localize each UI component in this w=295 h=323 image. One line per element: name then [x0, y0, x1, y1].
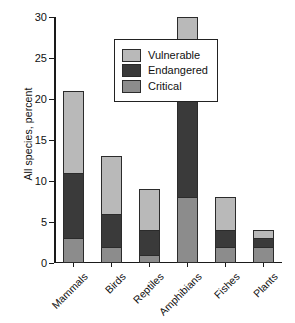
bar-segment-vulnerable[interactable] [63, 91, 84, 173]
x-axis-label-birds: Birds [103, 271, 127, 295]
bar-segment-critical[interactable] [63, 238, 84, 263]
bar-segment-critical[interactable] [215, 247, 236, 263]
y-tick-label: 20 [35, 94, 47, 105]
legend-item-critical[interactable]: Critical [122, 80, 208, 93]
chart-figure: All species, percent 051015202530 Mammal… [0, 0, 295, 323]
y-axis-title: All species, percent [22, 44, 34, 224]
bar-segment-endangered[interactable] [215, 230, 236, 246]
bar-segment-critical[interactable] [177, 197, 198, 263]
y-tick-label: 15 [35, 135, 47, 146]
bar-segment-vulnerable[interactable] [101, 156, 122, 213]
x-tick-mark [263, 263, 264, 267]
x-tick-mark [73, 263, 74, 267]
legend-swatch-icon [122, 64, 141, 77]
bar-mammals[interactable] [63, 91, 84, 263]
legend-item-endangered[interactable]: Endangered [122, 64, 208, 77]
x-tick-mark [111, 263, 112, 267]
bar-reptiles[interactable] [139, 189, 160, 263]
legend-swatch-icon [122, 80, 141, 93]
x-tick-mark [187, 263, 188, 267]
bar-segment-critical[interactable] [253, 247, 274, 263]
bar-segment-critical[interactable] [139, 255, 160, 263]
x-axis-label-fishes: Fishes [212, 271, 241, 300]
bar-segment-endangered[interactable] [177, 99, 198, 197]
bar-segment-critical[interactable] [101, 247, 122, 263]
bar-segment-endangered[interactable] [101, 214, 122, 247]
x-axis-label-plants: Plants [251, 271, 279, 299]
bar-segment-endangered[interactable] [253, 238, 274, 246]
y-tick-label: 0 [41, 258, 47, 269]
bar-segment-endangered[interactable] [139, 230, 160, 255]
x-tick-mark [225, 263, 226, 267]
chart-legend: VulnerableEndangeredCritical [114, 39, 218, 102]
bar-segment-vulnerable[interactable] [139, 189, 160, 230]
plot-area: 051015202530 MammalsBirdsReptilesAmphibi… [54, 17, 282, 263]
y-tick-label: 10 [35, 176, 47, 187]
legend-item-label: Endangered [148, 65, 208, 76]
y-tick-label: 30 [35, 12, 47, 23]
bar-segment-vulnerable[interactable] [253, 230, 274, 238]
x-axis-label-reptiles: Reptiles [131, 271, 165, 305]
legend-item-label: Vulnerable [148, 50, 200, 61]
y-tick-mark [49, 263, 54, 264]
bar-birds[interactable] [101, 156, 122, 263]
x-axis-label-mammals: Mammals [50, 271, 90, 311]
bar-segment-endangered[interactable] [63, 173, 84, 239]
legend-item-vulnerable[interactable]: Vulnerable [122, 49, 208, 62]
legend-swatch-icon [122, 49, 141, 62]
bar-segment-vulnerable[interactable] [215, 197, 236, 230]
legend-item-label: Critical [148, 81, 182, 92]
y-tick-label: 25 [35, 53, 47, 64]
x-tick-mark [149, 263, 150, 267]
bar-fishes[interactable] [215, 197, 236, 263]
y-tick-label: 5 [41, 217, 47, 228]
bar-plants[interactable] [253, 230, 274, 263]
